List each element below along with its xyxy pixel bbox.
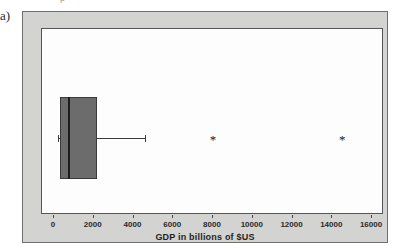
x-axis-tick-label: 0 <box>51 220 55 229</box>
x-axis-tick-mark <box>371 215 372 218</box>
x-axis-tick-mark <box>252 215 253 218</box>
figure-part-label: a) <box>0 8 10 24</box>
x-axis-title: GDP in billions of $US <box>23 232 387 242</box>
x-axis-tick-mark <box>212 215 213 218</box>
x-axis-tick-label: 14000 <box>320 220 342 229</box>
x-axis-tick-label: 8000 <box>203 220 221 229</box>
x-axis-tick-mark <box>53 215 54 218</box>
x-axis-tick-mark <box>93 215 94 218</box>
x-axis-tick-label: 4000 <box>124 220 142 229</box>
x-axis-tick-label: 10000 <box>241 220 263 229</box>
x-axis-tick-mark <box>331 215 332 218</box>
x-axis: 0200040006000800010000120001400016000 <box>23 12 387 242</box>
x-axis-tick-label: 6000 <box>163 220 181 229</box>
chart-panel: ** 0200040006000800010000120001400016000… <box>22 11 388 243</box>
x-axis-tick-mark <box>292 215 293 218</box>
x-axis-tick-label: 12000 <box>280 220 302 229</box>
x-axis-tick-mark <box>172 215 173 218</box>
cropped-top-text: p <box>60 0 210 5</box>
x-axis-tick-label: 2000 <box>84 220 102 229</box>
x-axis-tick-mark <box>133 215 134 218</box>
x-axis-tick-label: 16000 <box>360 220 382 229</box>
